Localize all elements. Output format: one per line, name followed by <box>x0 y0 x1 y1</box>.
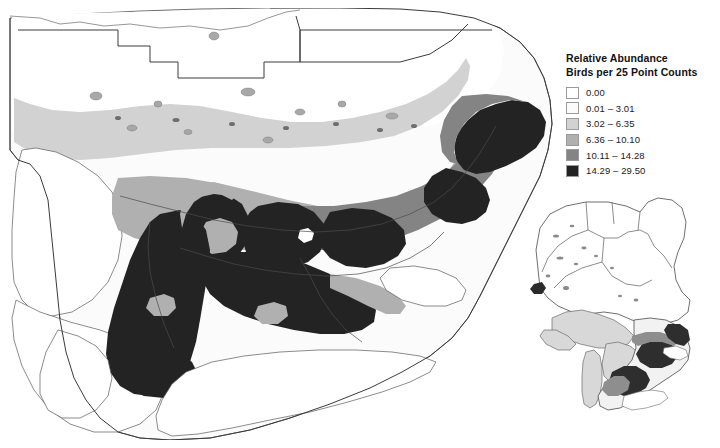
legend-row: 10.11 – 14.28 <box>566 147 716 163</box>
legend-row: 14.29 – 29.50 <box>566 163 716 179</box>
legend-row: 3.02 – 6.35 <box>566 116 716 132</box>
legend-row: 0.01 – 3.01 <box>566 101 716 117</box>
legend-swatch-icon <box>566 118 579 130</box>
inset-province-north <box>536 198 690 324</box>
legend-swatch-icon <box>566 149 579 161</box>
legend: Relative Abundance Birds per 25 Point Co… <box>566 52 716 179</box>
legend-title: Relative Abundance Birds per 25 Point Co… <box>566 52 716 79</box>
legend-swatch-icon <box>566 87 579 99</box>
main-map-group <box>10 8 552 440</box>
legend-items: 0.00 0.01 – 3.01 3.02 – 6.35 6.36 – 10.1… <box>566 85 716 179</box>
legend-label: 14.29 – 29.50 <box>586 165 645 176</box>
legend-label: 0.01 – 3.01 <box>586 103 635 114</box>
legend-label: 0.00 <box>586 87 605 98</box>
legend-row: 0.00 <box>566 85 716 101</box>
legend-swatch-icon <box>566 102 579 114</box>
legend-label: 3.02 – 6.35 <box>586 118 635 129</box>
legend-title-line2: Birds per 25 Point Counts <box>566 66 716 80</box>
inset-map-group <box>530 198 690 410</box>
map-figure: Relative Abundance Birds per 25 Point Co… <box>0 0 720 448</box>
legend-label: 6.36 – 10.10 <box>586 134 640 145</box>
legend-title-line1: Relative Abundance <box>566 52 716 66</box>
legend-label: 10.11 – 14.28 <box>586 150 645 161</box>
legend-swatch-icon <box>566 134 579 146</box>
legend-swatch-icon <box>566 165 579 177</box>
legend-row: 6.36 – 10.10 <box>566 132 716 148</box>
